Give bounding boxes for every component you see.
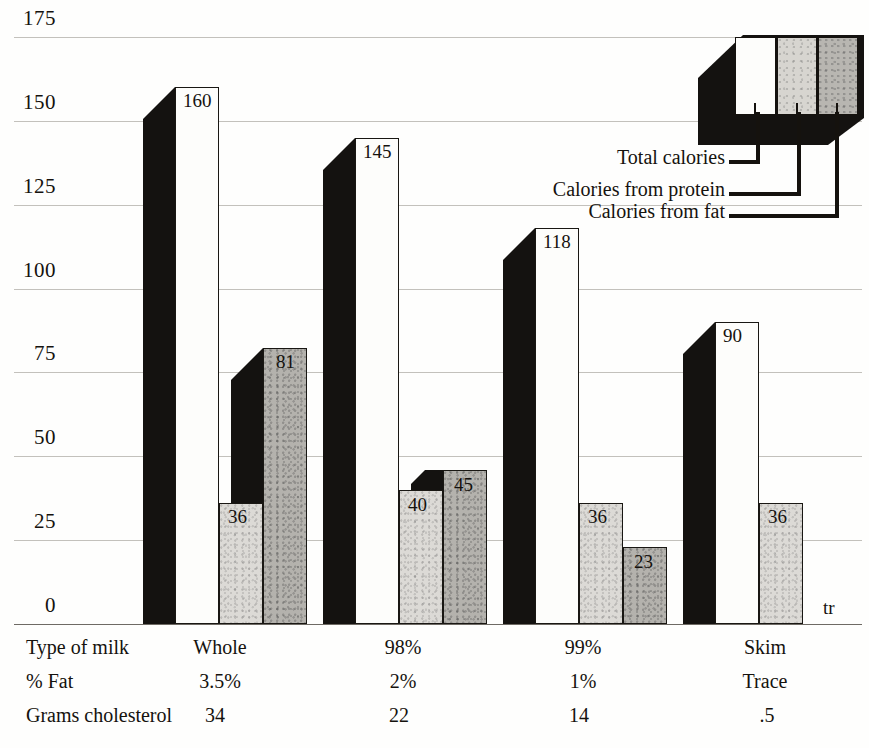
y-tick-label-0: 0 [0,593,56,618]
cell-type-skim: Skim [710,636,820,659]
bar-shadow-g2-total [323,138,356,624]
bar-shadow-g1-total [143,87,176,624]
legend-leader-protein-h [729,192,801,196]
bar-label-g4-fat-trace: tr [823,597,835,619]
cell-fat-whole: 3.5% [165,670,275,693]
bar-g1-fat[interactable] [263,348,307,624]
bar-g2-total[interactable] [355,138,399,624]
y-tick-label-175: 175 [0,6,56,31]
y-tick-label-150: 150 [0,90,56,115]
row-label-grams-cholesterol: Grams cholesterol [26,704,172,727]
bar-shadow-g3-total [503,228,536,624]
cell-fat-99: 1% [528,670,638,693]
row-label-percent-fat: % Fat [26,670,73,693]
cell-fat-98: 2% [348,670,458,693]
chart-canvas: 175 150 125 100 75 50 25 0 160 36 81 145… [0,0,869,748]
legend-label-calories-from-fat: Calories from fat [450,200,725,223]
bar-label-g4-total: 90 [723,325,742,347]
gridline-baseline-0 [14,624,862,625]
bar-label-g1-protein: 36 [228,506,247,528]
y-tick-label-100: 100 [0,258,56,283]
legend-label-calories-from-protein: Calories from protein [430,178,725,201]
y-tick-label-125: 125 [0,174,56,199]
bar-label-g2-total: 145 [363,141,392,163]
cell-type-whole: Whole [165,636,275,659]
y-tick-label-75: 75 [0,341,56,366]
gridline-100 [14,289,862,290]
cell-type-99: 99% [528,636,638,659]
bar-label-g2-protein: 40 [408,494,427,516]
legend-leader-fat-h [729,214,839,218]
cell-chol-whole: 34 [160,704,270,727]
bar-label-g3-total: 118 [543,231,571,253]
bar-label-g4-protein: 36 [768,506,787,528]
bar-label-g3-protein: 36 [588,506,607,528]
cell-chol-98: 22 [344,704,454,727]
bar-label-g1-fat: 81 [276,351,295,373]
row-label-type-of-milk: Type of milk [26,636,129,659]
cell-fat-skim: Trace [710,670,820,693]
cell-chol-skim: .5 [712,704,822,727]
bar-label-g3-fat: 23 [634,551,653,573]
bar-label-g2-fat: 45 [454,474,473,496]
bar-label-g1-total: 160 [183,90,212,112]
legend-leader-protein-v [797,112,801,195]
y-tick-label-25: 25 [0,509,56,534]
legend-label-total-calories: Total calories [470,146,725,169]
cell-type-98: 98% [348,636,458,659]
legend-swatch-calories-from-fat[interactable] [818,37,858,115]
bar-shadow-g4-total [683,322,716,624]
bar-g1-total[interactable] [175,87,219,624]
cell-chol-99: 14 [524,704,634,727]
y-tick-label-50: 50 [0,425,56,450]
bar-g3-total[interactable] [535,228,579,624]
legend-leader-fat-v [835,112,839,217]
legend-leader-total-calories-v [756,112,760,162]
bar-g4-total[interactable] [715,322,759,624]
